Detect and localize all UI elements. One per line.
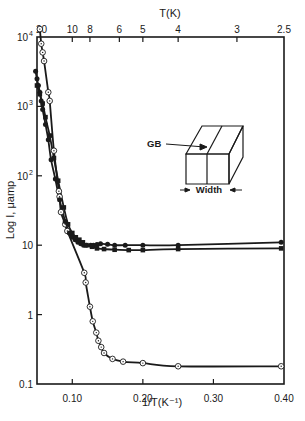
y-tick-label: 10 xyxy=(17,32,29,43)
y-tick-label: 10 xyxy=(22,240,34,251)
y-tick-label: 10 xyxy=(17,171,29,182)
x-tick-label: 0.40 xyxy=(274,393,294,404)
marker-dot xyxy=(48,92,49,93)
filled-circle-marker xyxy=(98,241,103,246)
marker-dot xyxy=(98,340,99,341)
filled-square-marker xyxy=(56,178,61,183)
filled-circle-marker xyxy=(140,243,145,248)
filled-circle-marker xyxy=(46,137,51,142)
filled-square-marker xyxy=(43,115,48,120)
marker-dot xyxy=(92,321,93,322)
marker-dot xyxy=(101,346,102,347)
curve-filled-circles-upper xyxy=(36,71,282,245)
top-axis-title: T(K) xyxy=(159,7,180,19)
filled-square-marker xyxy=(112,247,117,252)
marker-dot xyxy=(58,190,59,191)
chart: 0.100.200.300.401041031021010.1201086543… xyxy=(0,0,305,421)
filled-circle-marker xyxy=(43,122,48,127)
gb-arrow xyxy=(166,144,207,150)
y-tick-label: 10 xyxy=(17,101,29,112)
filled-circle-marker xyxy=(33,69,38,74)
filled-square-marker xyxy=(279,246,284,251)
filled-square-marker xyxy=(66,222,71,227)
curve-filled-squares-lower xyxy=(37,86,281,251)
marker-dot xyxy=(177,366,178,367)
filled-circle-marker xyxy=(123,243,128,248)
y-tick-label: 1 xyxy=(27,310,33,321)
marker-dot xyxy=(85,282,86,283)
plot-axes xyxy=(37,37,284,384)
marker-dot xyxy=(59,196,60,197)
grain-inset-diagram: GB Width xyxy=(147,126,243,195)
y-tick-label: 0.1 xyxy=(19,379,33,390)
marker-dot xyxy=(96,332,97,333)
x-tick-label: 0.30 xyxy=(204,393,224,404)
filled-square-marker xyxy=(52,156,57,161)
filled-square-marker xyxy=(95,246,100,251)
x-tick-label: 0.10 xyxy=(63,393,83,404)
width-label: Width xyxy=(196,184,222,195)
top-tick-label: 4 xyxy=(175,24,181,35)
filled-square-marker xyxy=(176,247,181,252)
filled-circle-marker xyxy=(279,240,284,245)
marker-dot xyxy=(49,100,50,101)
filled-square-marker xyxy=(102,247,107,252)
data-markers xyxy=(33,26,284,369)
marker-dot xyxy=(122,361,123,362)
y-axis-title: Log I, μamp xyxy=(4,181,16,239)
filled-square-marker xyxy=(84,243,89,248)
filled-circle-marker xyxy=(105,242,110,247)
filled-circle-marker xyxy=(57,197,62,202)
data-curves xyxy=(36,29,282,366)
marker-dot xyxy=(112,358,113,359)
marker-dot xyxy=(41,43,42,44)
plot-frame xyxy=(37,37,284,384)
filled-square-marker xyxy=(40,101,45,106)
marker-dot xyxy=(103,352,104,353)
top-tick-label: 3 xyxy=(234,24,240,35)
y-tick-exponent: 3 xyxy=(29,99,33,106)
y-tick-exponent: 4 xyxy=(29,30,33,37)
marker-dot xyxy=(43,60,44,61)
x-axis-title: 1/T(K⁻¹) xyxy=(142,396,182,408)
marker-dot xyxy=(39,28,40,29)
filled-square-marker xyxy=(141,248,146,253)
filled-square-marker xyxy=(126,248,131,253)
filled-square-marker xyxy=(70,231,75,236)
marker-dot xyxy=(60,211,61,212)
filled-square-marker xyxy=(35,83,40,88)
marker-dot xyxy=(142,362,143,363)
filled-circle-marker xyxy=(40,107,45,112)
filled-square-marker xyxy=(62,205,67,210)
gb-label: GB xyxy=(147,138,161,149)
marker-dot xyxy=(84,272,85,273)
marker-dot xyxy=(42,52,43,53)
curve-open-circles xyxy=(40,29,281,366)
marker-dot xyxy=(89,306,90,307)
top-tick-label: 5 xyxy=(140,24,146,35)
filled-circle-marker xyxy=(35,76,40,81)
filled-square-marker xyxy=(38,92,43,97)
top-tick-label: 8 xyxy=(87,24,93,35)
marker-dot xyxy=(280,366,281,367)
filled-square-marker xyxy=(47,133,52,138)
y-tick-exponent: 2 xyxy=(29,169,33,176)
filled-circle-marker xyxy=(112,243,117,248)
top-tick-label: 10 xyxy=(67,24,79,35)
block-icon xyxy=(186,126,243,184)
top-tick-label: 2.5 xyxy=(277,24,291,35)
marker-dot xyxy=(53,150,54,151)
top-tick-label: 6 xyxy=(117,24,123,35)
filled-square-marker xyxy=(90,244,95,249)
